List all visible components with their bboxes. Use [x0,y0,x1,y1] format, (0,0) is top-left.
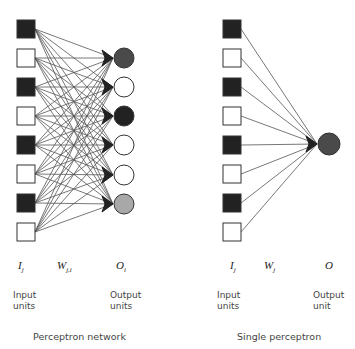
right-caption: Single perceptron [237,331,321,342]
connection-line [241,116,317,144]
input-unit-square [223,20,241,38]
input-unit-square [17,49,35,67]
output-unit-circle [318,133,340,155]
input-unit-square [223,49,241,67]
right-network-connections [241,29,317,232]
input-unit-square [17,165,35,183]
right-input-symbol: Ij [230,259,236,274]
connection-line [35,204,113,232]
input-unit-square [17,20,35,38]
right-output-unit-label: Output unit [313,290,344,312]
right-output-label-line2: unit [313,301,344,312]
left-input-label-line2: units [13,301,36,312]
connection-line [35,29,113,58]
input-unit-square [17,136,35,154]
input-unit-square [17,78,35,96]
connection-line [35,87,113,232]
right-weight-symbol: Wj [264,259,275,274]
output-unit-circle [114,106,134,126]
right-output-label-line1: Output [313,290,344,301]
connection-line [241,144,317,174]
input-unit-square [223,165,241,183]
left-input-label-line1: Input [13,290,36,301]
input-unit-square [223,194,241,212]
output-unit-circle [114,165,134,185]
left-output-label-line2: units [110,301,141,312]
right-input-label-line1: Input [217,290,240,301]
left-weight-symbol: Wj,i [57,259,72,274]
connection-line [35,145,113,232]
connection-line [241,58,317,144]
perceptron-diagram [0,0,355,349]
input-unit-square [223,136,241,154]
left-caption: Perceptron network [33,331,126,342]
left-output-label-line1: Output [110,290,141,301]
connection-line [241,144,317,232]
left-input-symbol: Ij [18,259,24,274]
input-unit-square [17,223,35,241]
right-input-label-line2: units [217,301,240,312]
left-output-symbol: Oi [116,259,126,274]
output-unit-circle [114,135,134,155]
connection-line [241,29,317,144]
input-unit-square [17,194,35,212]
right-output-symbol: O [325,259,333,271]
input-unit-square [223,78,241,96]
output-unit-circle [114,48,134,68]
left-network-nodes [17,20,134,241]
right-input-units-label: Input units [217,290,240,312]
input-unit-square [223,107,241,125]
output-unit-circle [114,77,134,97]
input-unit-square [223,223,241,241]
connection-line [241,144,317,145]
input-unit-square [17,107,35,125]
left-input-units-label: Input units [13,290,36,312]
left-output-units-label: Output units [110,290,141,312]
output-unit-circle [114,194,134,214]
left-network-connections [35,29,113,232]
